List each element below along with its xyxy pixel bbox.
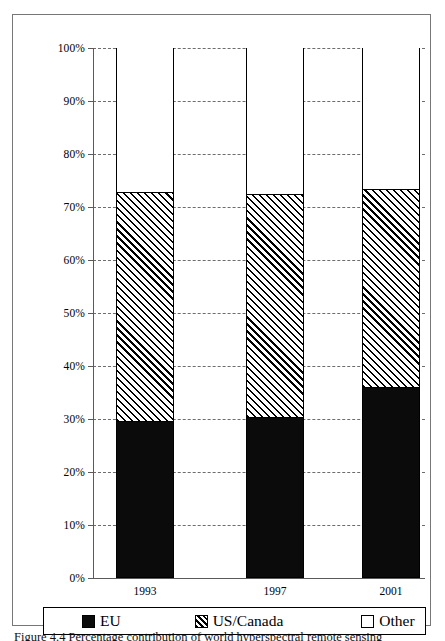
segment-eu-1997	[247, 417, 303, 577]
x-axis-line	[93, 578, 425, 579]
legend-item-other: Other	[361, 612, 414, 630]
y-axis-tick-label: 100%	[58, 42, 85, 54]
legend-label: EU	[100, 612, 121, 630]
segment-us-canada-1993	[117, 192, 173, 421]
x-axis-label-1997: 1997	[264, 585, 287, 597]
x-axis-label-1993: 1993	[134, 585, 157, 597]
y-axis-tick-label: 80%	[64, 148, 85, 160]
segment-us-canada-1997	[247, 194, 303, 417]
bar-1993	[116, 48, 174, 578]
plot-area	[93, 48, 425, 578]
y-axis-tick-label: 50%	[64, 307, 85, 319]
y-axis-tick-label: 70%	[64, 201, 85, 213]
y-axis-tick-label: 90%	[64, 95, 85, 107]
y-axis-tick	[88, 578, 94, 579]
bar-1997	[246, 48, 304, 578]
segment-us-canada-2001	[363, 189, 419, 387]
segment-other-2001	[363, 47, 419, 189]
segment-eu-2001	[363, 387, 419, 577]
y-axis-tick-label: 60%	[64, 254, 85, 266]
y-axis-tick-label: 30%	[64, 413, 85, 425]
figure-caption: Figure 4.4 Percentage contribution of wo…	[14, 630, 434, 641]
segment-other-1993	[117, 47, 173, 192]
bar-2001	[362, 48, 420, 578]
black-square-icon	[82, 615, 95, 628]
y-axis-tick-label: 20%	[64, 466, 85, 478]
legend-label: Other	[379, 612, 414, 630]
y-axis-tick-label: 10%	[64, 519, 85, 531]
y-axis-tick-label: 0%	[69, 572, 85, 584]
x-axis-label-2001: 2001	[380, 585, 403, 597]
legend-label: US/Canada	[213, 612, 284, 630]
white-square-icon	[361, 615, 374, 628]
legend-item-us-canada: US/Canada	[195, 612, 284, 630]
chart-frame: 0%10%20%30%40%50%60%70%80%90%100% 199319…	[12, 14, 431, 626]
y-axis-tick-label: 40%	[64, 360, 85, 372]
legend-item-eu: EU	[82, 612, 121, 630]
segment-eu-1993	[117, 421, 173, 577]
segment-other-1997	[247, 47, 303, 194]
hatched-square-icon	[195, 615, 208, 628]
figure: 0%10%20%30%40%50%60%70%80%90%100% 199319…	[0, 0, 445, 641]
